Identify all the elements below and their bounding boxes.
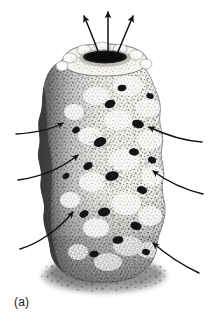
inflow-arrows-right <box>149 127 203 273</box>
flow-arrow-layer <box>0 0 208 332</box>
inflow-arrows-left <box>16 123 78 249</box>
outflow-arrow-left <box>84 16 100 57</box>
inflow-arrow-right-upper <box>149 127 202 142</box>
sponge-figure: (a) <box>0 0 208 332</box>
inflow-arrow-right-middle <box>153 171 203 194</box>
inflow-arrow-right-lower <box>153 243 199 273</box>
outflow-arrow-right <box>116 16 133 57</box>
outflow-arrows <box>84 12 133 57</box>
inflow-arrow-left-middle <box>18 155 78 180</box>
figure-panel-label: (a) <box>14 296 29 308</box>
inflow-arrow-left-lower <box>20 212 73 249</box>
inflow-arrow-left-upper <box>16 123 63 134</box>
